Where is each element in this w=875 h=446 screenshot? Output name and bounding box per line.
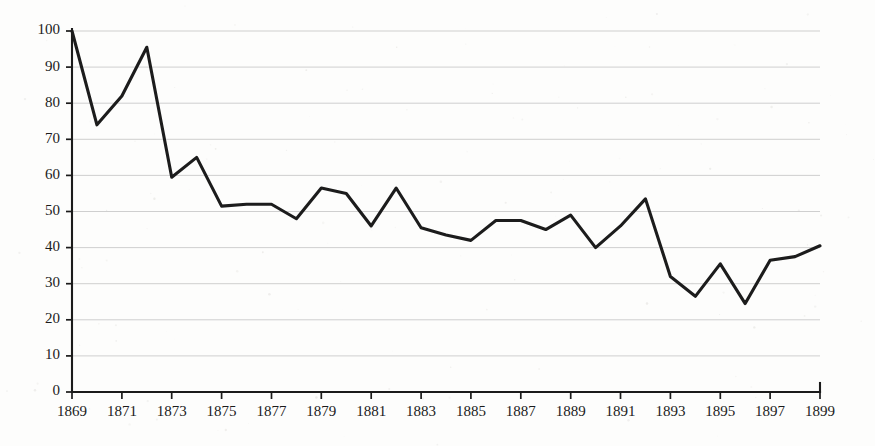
x-tick-label-1869: 1869 xyxy=(57,403,87,419)
y-tick-label-10: 10 xyxy=(45,346,60,362)
x-tick-label-1883: 1883 xyxy=(406,403,436,419)
y-tick-label-60: 60 xyxy=(45,166,60,182)
chart-canvas: 0102030405060708090100 18691871187318751… xyxy=(0,0,875,446)
y-tick-label-30: 30 xyxy=(45,274,60,290)
x-tick-label-1881: 1881 xyxy=(356,403,386,419)
y-tick-label-80: 80 xyxy=(45,94,60,110)
paper-speckle-texture xyxy=(6,6,874,446)
x-tick-label-1895: 1895 xyxy=(705,403,735,419)
x-tick-label-1887: 1887 xyxy=(506,403,537,419)
y-tick-label-40: 40 xyxy=(45,238,60,254)
y-tick-label-100: 100 xyxy=(38,21,61,37)
x-tick-label-1893: 1893 xyxy=(655,403,685,419)
x-tick-label-1875: 1875 xyxy=(207,403,237,419)
y-tick-label-20: 20 xyxy=(45,310,60,326)
y-axis-tick-labels: 0102030405060708090100 xyxy=(38,21,61,398)
gridlines xyxy=(72,31,820,356)
y-axis xyxy=(66,29,72,392)
x-tick-label-1897: 1897 xyxy=(755,403,786,419)
x-tick-label-1877: 1877 xyxy=(257,403,288,419)
x-axis-tick-labels: 1869187118731875187718791881188318851887… xyxy=(57,403,835,419)
x-tick-label-1885: 1885 xyxy=(456,403,486,419)
y-tick-label-0: 0 xyxy=(53,382,61,398)
y-tick-label-50: 50 xyxy=(45,202,60,218)
x-tick-label-1889: 1889 xyxy=(556,403,586,419)
data-series-line xyxy=(72,31,820,304)
line-chart: 0102030405060708090100 18691871187318751… xyxy=(0,0,875,446)
y-tick-label-90: 90 xyxy=(45,58,60,74)
y-tick-label-70: 70 xyxy=(45,130,60,146)
x-tick-label-1891: 1891 xyxy=(606,403,636,419)
x-tick-label-1871: 1871 xyxy=(107,403,137,419)
x-tick-label-1873: 1873 xyxy=(157,403,187,419)
x-axis xyxy=(72,383,820,399)
series-line-0 xyxy=(72,31,820,304)
x-tick-label-1899: 1899 xyxy=(805,403,835,419)
x-tick-label-1879: 1879 xyxy=(306,403,336,419)
